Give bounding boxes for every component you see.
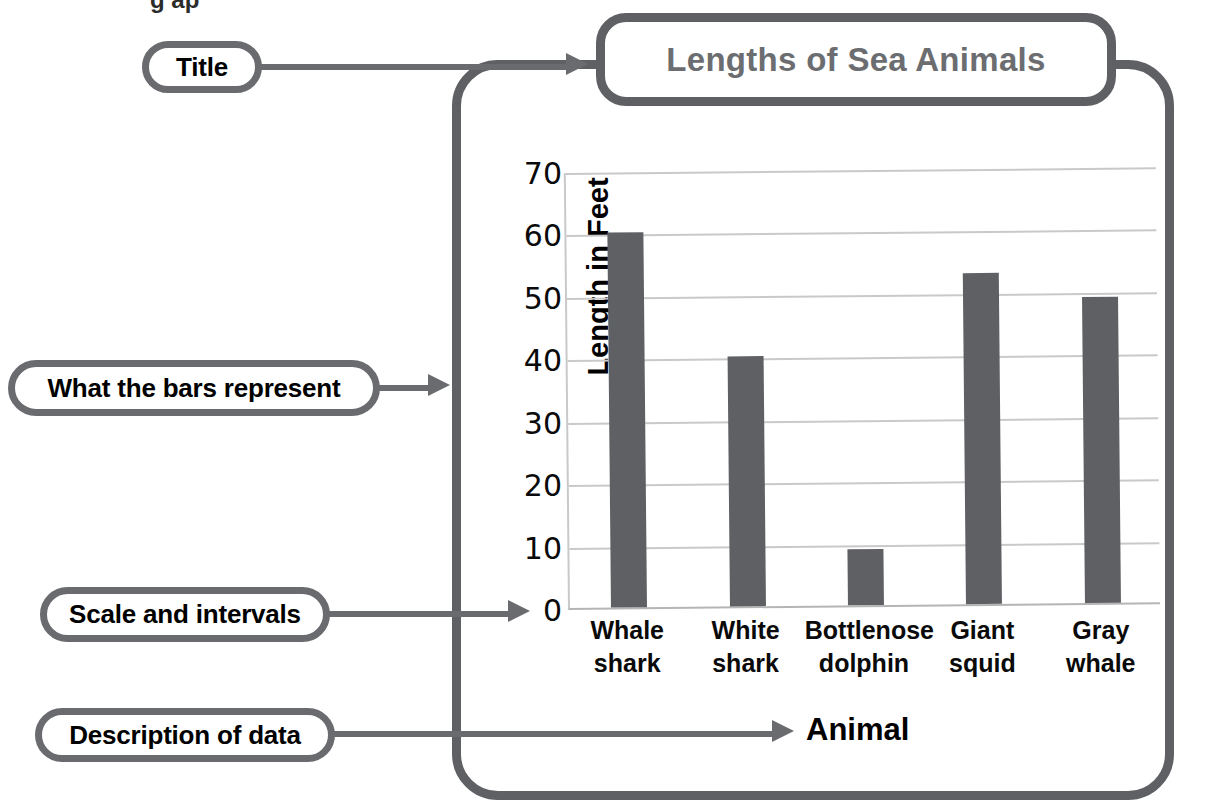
callout-description-label: Description of data: [69, 720, 301, 751]
bar-bottlenose-dolphin: [847, 549, 884, 606]
connector-description-arrowhead: [772, 720, 794, 742]
gridline-50: [567, 292, 1157, 300]
y-tick-label-30: 30: [510, 405, 562, 440]
bar-giant-squid: [963, 273, 1002, 604]
connector-title-line: [258, 64, 576, 70]
x-tick-label-line: Giant: [923, 614, 1041, 647]
x-tick-label-whale-shark: Whaleshark: [568, 614, 686, 680]
bar-white-shark: [727, 356, 765, 606]
gridline-40: [568, 355, 1158, 363]
y-tick-label-60: 60: [510, 218, 562, 253]
callout-description-of-data[interactable]: Description of data: [35, 708, 335, 762]
x-tick-label-bottlenose-dolphin: Bottlenosedolphin: [805, 614, 923, 680]
x-axis-tick-labels: WhalesharkWhitesharkBottlenosedolphinGia…: [568, 614, 1160, 698]
connector-description-line: [330, 731, 782, 737]
connector-title-arrowhead: [566, 53, 588, 75]
callout-what-the-bars-represent[interactable]: What the bars represent: [8, 360, 380, 416]
graph-title-box: Lengths of Sea Animals: [596, 13, 1116, 106]
x-tick-label-line: Gray: [1042, 614, 1160, 647]
callout-scale-and-intervals[interactable]: Scale and intervals: [40, 587, 330, 642]
gridline-20: [569, 479, 1159, 487]
x-tick-label-line: squid: [923, 647, 1041, 680]
page-top-fragment: g ap: [150, 0, 199, 14]
gridline-30: [568, 417, 1158, 425]
x-tick-label-gray-whale: Graywhale: [1042, 614, 1160, 680]
connector-scale-line: [326, 611, 518, 617]
x-tick-label-white-shark: Whiteshark: [686, 614, 804, 680]
x-tick-label-line: shark: [686, 647, 804, 680]
gridline-70: [566, 167, 1156, 175]
x-tick-label-line: shark: [568, 647, 686, 680]
bar-whale-shark: [608, 233, 648, 608]
gridline-60: [566, 230, 1156, 238]
bar-chart: Length in Feet 010203040506070 Whaleshar…: [470, 140, 1170, 700]
x-tick-label-line: whale: [1042, 647, 1160, 680]
callout-title[interactable]: Title: [142, 41, 262, 93]
graph-title-text: Lengths of Sea Animals: [666, 41, 1045, 79]
y-tick-label-70: 70: [510, 156, 562, 191]
y-tick-label-40: 40: [510, 343, 562, 378]
connector-bars-arrowhead: [428, 374, 450, 396]
y-tick-label-50: 50: [510, 280, 562, 315]
bar-gray-whale: [1082, 297, 1121, 603]
x-tick-label-line: Whale: [568, 614, 686, 647]
callout-scale-label: Scale and intervals: [69, 599, 301, 630]
x-axis-title: Animal: [806, 712, 909, 748]
y-tick-label-10: 10: [510, 530, 562, 565]
connector-scale-arrowhead: [508, 600, 530, 622]
callout-title-label: Title: [176, 52, 228, 83]
y-axis-tick-labels: 010203040506070: [500, 173, 562, 610]
x-tick-label-line: Bottlenose: [805, 614, 923, 647]
x-tick-label-line: dolphin: [805, 647, 923, 680]
y-tick-label-20: 20: [510, 468, 562, 503]
x-tick-label-giant-squid: Giantsquid: [923, 614, 1041, 680]
plot-area: [564, 167, 1160, 610]
x-tick-label-line: White: [686, 614, 804, 647]
callout-bars-label: What the bars represent: [47, 373, 340, 404]
